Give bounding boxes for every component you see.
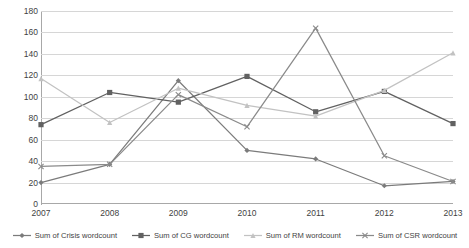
legend-item-label: Sum of RM wordcount (266, 231, 341, 240)
data-point-marker (176, 100, 181, 105)
x-axis-tick: 2009 (169, 208, 188, 218)
data-point-marker (38, 180, 43, 185)
data-point-marker (38, 76, 43, 81)
series-line (41, 81, 453, 186)
y-axis-tick: 160 (2, 28, 38, 37)
y-axis-tick: 100 (2, 92, 38, 101)
data-point-marker (38, 122, 43, 127)
legend-item-label: Sum of Crisis wordcount (35, 231, 117, 240)
plot-area (41, 11, 453, 204)
y-axis-tick: 20 (2, 178, 38, 187)
data-point-marker (313, 26, 318, 31)
legend-marker-icon (12, 231, 32, 240)
legend-marker-icon (355, 231, 375, 240)
legend-item[interactable]: Sum of CSR wordcount (355, 231, 457, 240)
y-axis-tick-labels: 020406080100120140160180 (0, 11, 38, 204)
data-point-marker (313, 156, 318, 161)
data-point-marker (244, 124, 249, 129)
y-axis-tick: 80 (2, 114, 38, 123)
x-axis-tick: 2011 (307, 208, 325, 218)
y-axis-tick: 180 (2, 7, 38, 16)
data-point-marker (382, 183, 387, 188)
y-axis-tick: 60 (2, 135, 38, 144)
x-axis-tick-labels: 2007200820092010201120122013 (41, 208, 453, 222)
data-point-marker (450, 50, 455, 55)
series-line (41, 53, 453, 123)
y-axis-tick: 40 (2, 157, 38, 166)
data-point-marker (244, 74, 249, 79)
legend-item-label: Sum of CSR wordcount (378, 231, 457, 240)
x-axis-tick: 2012 (375, 208, 394, 218)
legend-marker-icon (131, 231, 151, 240)
y-axis-tick: 120 (2, 71, 38, 80)
data-point-marker (107, 90, 112, 95)
series-1 (38, 74, 455, 127)
x-axis-tick: 2013 (444, 208, 463, 218)
legend-item-label: Sum of CG wordcount (154, 231, 229, 240)
series-layer (41, 11, 453, 204)
data-point-marker (382, 153, 387, 158)
chart-legend: Sum of Crisis wordcountSum of CG wordcou… (0, 228, 469, 242)
x-axis-tick: 2010 (238, 208, 257, 218)
legend-item[interactable]: Sum of CG wordcount (131, 231, 229, 240)
data-point-marker (176, 92, 181, 97)
legend-marker-icon (243, 231, 263, 240)
series-0 (38, 78, 455, 188)
x-axis-tick: 2007 (32, 208, 51, 218)
legend-item[interactable]: Sum of Crisis wordcount (12, 231, 117, 240)
data-point-marker (450, 121, 455, 126)
x-axis-tick: 2008 (100, 208, 119, 218)
y-axis-tick: 140 (2, 49, 38, 58)
legend-item[interactable]: Sum of RM wordcount (243, 231, 341, 240)
series-2 (38, 50, 455, 125)
line-chart: 020406080100120140160180 200720082009201… (0, 0, 469, 248)
